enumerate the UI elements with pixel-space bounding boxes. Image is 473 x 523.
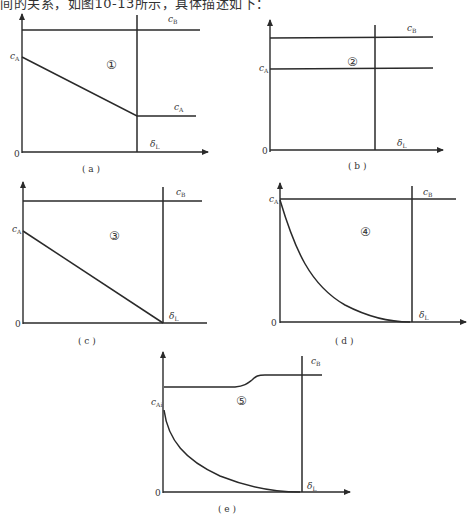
region-label: ④	[360, 225, 371, 239]
origin-label: 0	[271, 318, 277, 328]
delta-L-label: δL	[150, 139, 159, 150]
panel-caption: ( a )	[82, 164, 100, 174]
cB-label: cB	[176, 187, 186, 198]
delta-L-label: δL	[307, 481, 316, 492]
cA-left-label: cA	[10, 51, 20, 62]
origin-label: 0	[262, 146, 268, 156]
cB-label: cB	[311, 356, 321, 367]
region-label: ①	[106, 58, 117, 72]
panel-a: cB cA cA δL 0 ① ( a )	[10, 14, 208, 174]
delta-L-label: δL	[419, 310, 428, 321]
panel-caption: ( e )	[218, 504, 236, 514]
cB-line	[270, 37, 433, 38]
cB-profile	[164, 375, 322, 387]
panel-caption: ( b )	[348, 161, 367, 171]
cB-label: cB	[423, 187, 433, 198]
panel-caption: ( c )	[78, 336, 96, 346]
cA-decay-curve	[280, 200, 410, 322]
cA-left-label: cA	[259, 63, 269, 74]
cB-label: cB	[407, 23, 417, 34]
delta-L-label: δL	[397, 138, 406, 149]
region-label: ②	[347, 55, 358, 69]
panel-caption: ( d )	[335, 336, 354, 346]
region-label: ⑤	[236, 394, 247, 408]
panel-b: cB cA δL 0 ② ( b )	[259, 20, 443, 171]
cA-decay-curve	[164, 410, 300, 492]
origin-label: 0	[14, 149, 20, 159]
panel-e: cB cAi δL 0 ⑤ ( e )	[151, 352, 350, 514]
origin-label: 0	[15, 319, 21, 329]
diagram-canvas: cB cA cA δL 0 ① ( a ) cB cA δL 0 ② ( b )…	[0, 0, 473, 523]
delta-L-label: δL	[169, 311, 178, 322]
cA-left-label: cAi	[151, 397, 162, 408]
cA-right-label: cA	[174, 102, 184, 113]
origin-label: 0	[155, 488, 161, 498]
cA-left-label: cA	[12, 224, 22, 235]
region-label: ③	[109, 229, 120, 243]
cA-profile	[23, 231, 163, 323]
panel-c: cB cA δL 0 ③ ( c )	[12, 182, 207, 346]
cB-label: cB	[168, 14, 178, 25]
panel-d: cB cA δL 0 ④ ( d )	[269, 183, 466, 346]
cA-left-label: cA	[269, 194, 279, 205]
